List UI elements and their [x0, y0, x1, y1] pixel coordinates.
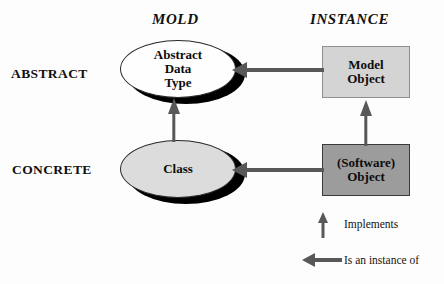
arrow-head: [302, 253, 315, 267]
up-arrow-icon: [360, 100, 372, 116]
legend-label-implements: Implements: [344, 218, 398, 230]
edge-software-object-to-model-object: [358, 100, 374, 146]
node-label-class: Class: [163, 162, 193, 176]
node-label-abstract-data-type: Abstract Data Type: [154, 48, 202, 90]
node-model-object[interactable]: Model Object: [322, 46, 410, 98]
legend-label-is-an-instance-of: Is an instance of: [344, 254, 419, 266]
row-label-concrete: CONCRETE: [12, 162, 92, 178]
edge-class-to-abstract-data-type: [166, 98, 182, 142]
edge-model-object-to-abstract-data-type: [232, 61, 324, 79]
node-software-object[interactable]: (Software) Object: [322, 144, 410, 196]
node-class[interactable]: Class: [120, 140, 240, 202]
ellipse-face: Abstract Data Type: [120, 40, 236, 98]
legend-item-implements: Implements: [300, 212, 444, 236]
up-arrow-icon: [316, 212, 330, 238]
arrow-shaft: [246, 168, 324, 172]
arrow-shaft: [314, 258, 342, 262]
edge-software-object-to-class: [232, 161, 324, 179]
left-arrow-icon: [232, 162, 247, 178]
left-arrow-icon: [232, 62, 247, 78]
row-label-abstract: ABSTRACT: [11, 66, 88, 82]
node-label-model-object: Model Object: [347, 58, 385, 87]
ellipse-face: Class: [120, 140, 236, 198]
column-header-mold: MOLD: [152, 11, 199, 28]
arrow-shaft: [246, 68, 324, 72]
arrow-shaft: [322, 221, 325, 238]
legend: Implements Is an instance of: [300, 212, 444, 278]
diagram-canvas: MOLD INSTANCE ABSTRACT CONCRETE Abstract…: [0, 0, 444, 284]
arrow-head: [318, 212, 328, 223]
left-arrow-icon: [302, 252, 342, 268]
up-arrow-icon: [168, 98, 180, 114]
node-abstract-data-type[interactable]: Abstract Data Type: [120, 40, 240, 102]
column-header-instance: INSTANCE: [310, 11, 389, 28]
legend-item-is-an-instance-of: Is an instance of: [300, 248, 444, 272]
node-label-software-object: (Software) Object: [337, 156, 395, 185]
